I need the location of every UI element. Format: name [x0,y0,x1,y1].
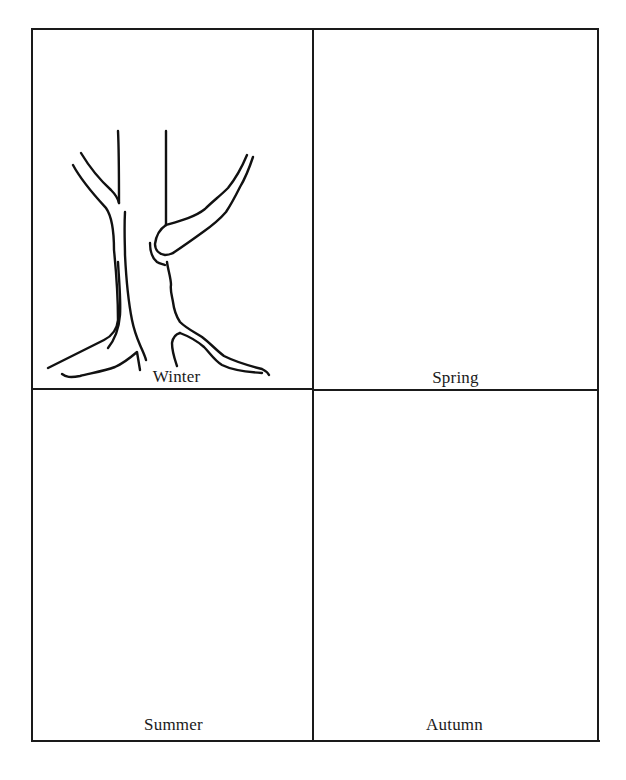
cell-spring: Spring [314,30,597,389]
cell-autumn: Autumn [314,391,597,740]
cell-winter: Winter [33,30,312,388]
season-label-spring: Spring [314,368,597,388]
divider-horizontal-left [33,388,313,390]
seasons-worksheet: Winter Spring Summer Autumn [0,0,626,780]
season-label-autumn: Autumn [312,715,597,735]
cell-summer: Summer [33,391,312,740]
border-bottom [31,740,600,742]
season-label-winter: Winter [41,367,312,387]
border-right [597,28,599,742]
season-label-summer: Summer [35,715,312,735]
